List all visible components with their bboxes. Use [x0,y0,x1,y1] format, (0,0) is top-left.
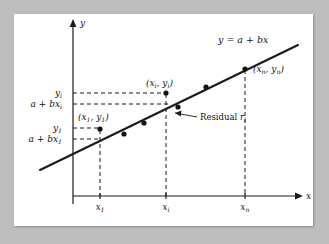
data-point [242,66,247,71]
residual-leader-arrowhead [175,111,182,117]
data-point [97,126,102,131]
x-tick-label-1: x1 [96,202,105,213]
data-point [141,120,146,125]
point-label-n: (xn, yn) [253,64,284,75]
point-label-i: (xi, yi) [146,78,173,89]
regression-figure: y x y = a + bx yi a + bxi y1 a + bx1 x1 … [0,0,329,244]
y-tick-label-yi: yi [54,88,62,99]
data-point [175,104,180,109]
x-axis-label: x [306,191,311,201]
y-tick-label-abx1: a + bx1 [29,134,62,145]
point-label-1: (x1, y1) [78,112,109,123]
x-tick-label-n: xn [241,202,250,213]
y-axis-label: y [79,18,86,28]
y-tick-label-abxi: a + bxi [31,99,62,110]
x-axis-arrowhead [295,193,303,200]
regression-equation-label: y = a + bx [217,34,269,45]
y-tick-label-y1: y1 [52,123,62,134]
residual-label: Residual ri [200,112,246,123]
y-axis-arrowhead [70,19,77,27]
x-tick-label-i: xi [163,202,170,213]
figure-canvas: y x y = a + bx yi a + bxi y1 a + bx1 x1 … [0,0,329,244]
data-point [163,90,168,95]
data-point [203,84,208,89]
data-point [121,131,126,136]
